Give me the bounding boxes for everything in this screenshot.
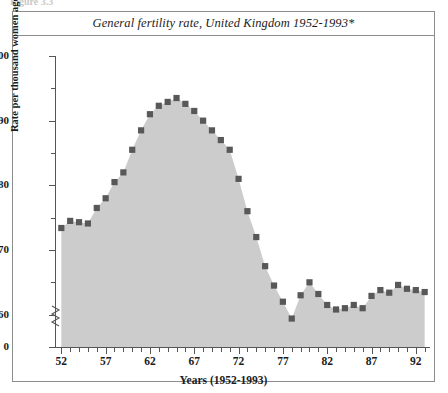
x-tick-1993	[425, 347, 426, 352]
area-fill	[61, 98, 424, 347]
y-tick-95	[13, 88, 56, 89]
x-tick-label-1992: 92	[410, 355, 422, 367]
y-tick-label: 0	[4, 340, 10, 352]
x-tick-1983	[336, 347, 337, 352]
figure-root: Figure 3.3 General fertility rate, Unite…	[0, 0, 448, 393]
data-point-1969	[209, 127, 215, 133]
x-tick-1976	[274, 347, 275, 352]
x-tick-1984	[345, 347, 346, 352]
x-tick-1960	[132, 347, 133, 352]
x-tick-1968	[203, 347, 204, 352]
x-tick-1952	[61, 347, 62, 354]
data-point-1992	[413, 287, 419, 293]
x-tick-label-1972: 72	[233, 355, 245, 367]
data-point-1966	[182, 101, 188, 107]
x-tick-label-1952: 52	[56, 355, 68, 367]
x-tick-label-1967: 67	[189, 355, 201, 367]
y-tick-80: 80	[13, 185, 56, 186]
x-tick-1964	[168, 347, 169, 352]
data-point-1957	[103, 195, 109, 201]
x-tick-1987	[372, 347, 373, 354]
x-tick-1973	[247, 347, 248, 352]
x-tick-1981	[318, 347, 319, 352]
data-point-1954	[76, 219, 82, 225]
y-tick-mark	[49, 185, 56, 186]
data-point-1983	[333, 306, 339, 312]
x-tick-1982	[327, 347, 328, 354]
chart-panel: General fertility rate, United Kingdom 1…	[12, 11, 435, 382]
data-point-1965	[173, 95, 179, 101]
plot-wrapper: Rate per thousand women aged 15-44 10090…	[13, 36, 434, 383]
x-tick-1992	[416, 347, 417, 354]
data-point-1987	[368, 293, 374, 299]
data-point-1970	[218, 137, 224, 143]
y-tick-100: 100	[13, 56, 56, 57]
x-tick-1974	[256, 347, 257, 352]
data-point-1990	[395, 282, 401, 288]
data-point-1961	[138, 127, 144, 133]
x-tick-1953	[70, 347, 71, 352]
x-tick-1961	[141, 347, 142, 352]
x-tick-1958	[114, 347, 115, 352]
data-point-1986	[360, 305, 366, 311]
x-tick-label-1957: 57	[100, 355, 112, 367]
figure-caption: Figure 3.3	[10, 0, 130, 8]
x-tick-1963	[159, 347, 160, 352]
x-axis-line	[55, 347, 430, 348]
y-tick-65	[13, 282, 56, 283]
data-point-1967	[191, 108, 197, 114]
data-point-1977	[280, 299, 286, 305]
x-tick-label-1962: 62	[144, 355, 156, 367]
data-point-1982	[324, 302, 330, 308]
x-tick-1967	[194, 347, 195, 354]
x-tick-1955	[88, 347, 89, 352]
x-tick-1969	[212, 347, 213, 352]
data-point-1952	[58, 225, 64, 231]
x-tick-1962	[150, 347, 151, 354]
x-tick-1978	[292, 347, 293, 352]
y-tick-mark	[49, 121, 56, 122]
data-point-1962	[147, 111, 153, 117]
data-point-1964	[165, 99, 171, 105]
x-tick-label-1982: 82	[321, 355, 333, 367]
y-tick-label: 100	[0, 49, 9, 61]
x-tick-1988	[380, 347, 381, 352]
data-point-1978	[289, 315, 295, 321]
x-tick-1956	[97, 347, 98, 352]
data-point-1991	[404, 286, 410, 292]
data-point-1968	[200, 118, 206, 124]
data-point-1981	[315, 291, 321, 297]
chart-title-band: General fertility rate, United Kingdom 1…	[13, 12, 434, 36]
y-tick-label: 80	[0, 178, 9, 190]
data-point-1963	[156, 103, 162, 109]
x-tick-1954	[79, 347, 80, 352]
x-tick-1980	[309, 347, 310, 352]
y-tick-75	[13, 218, 56, 219]
data-point-1972	[235, 176, 241, 182]
x-tick-1972	[239, 347, 240, 354]
data-point-1985	[351, 302, 357, 308]
data-point-1975	[262, 263, 268, 269]
x-tick-1957	[106, 347, 107, 354]
plot-area	[56, 56, 430, 347]
x-tick-1986	[363, 347, 364, 352]
data-point-1955	[85, 220, 91, 226]
data-point-1971	[227, 147, 233, 153]
x-tick-1966	[185, 347, 186, 352]
y-tick-mark	[49, 56, 56, 57]
data-point-1980	[306, 279, 312, 285]
x-tick-1959	[123, 347, 124, 352]
data-point-1956	[94, 205, 100, 211]
x-axis-label: Years (1952-1993)	[13, 374, 434, 386]
x-tick-1985	[354, 347, 355, 352]
y-tick-mark	[49, 347, 56, 348]
data-point-1988	[377, 287, 383, 293]
x-tick-1977	[283, 347, 284, 354]
data-point-1959	[120, 169, 126, 175]
y-axis-label: Rate per thousand women aged 15-44	[9, 0, 20, 132]
y-tick-85	[13, 153, 56, 154]
data-point-1993	[422, 289, 428, 295]
y-tick-label: 70	[0, 243, 9, 255]
page-title: General fertility rate, United Kingdom 1…	[93, 16, 355, 31]
data-point-1960	[129, 147, 135, 153]
